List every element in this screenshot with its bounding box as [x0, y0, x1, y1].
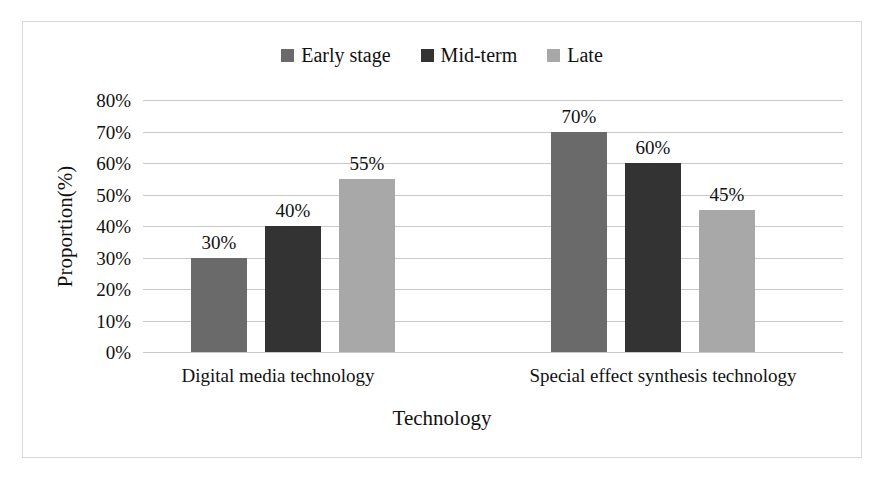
bar[interactable] [625, 163, 681, 352]
plot-area: 80%70%60%50%40%30%20%10%0%30%40%55%70%60… [143, 100, 843, 352]
x-axis-category-label: Digital media technology [143, 366, 413, 385]
y-axis-tick-label: 70% [96, 122, 131, 141]
bar-value-label: 60% [636, 138, 671, 157]
gridline [143, 352, 843, 353]
bar-column[interactable]: 55% [339, 100, 395, 352]
bar[interactable] [191, 258, 247, 353]
legend-item[interactable]: Early stage [281, 45, 390, 65]
y-axis-tick-label: 0% [106, 343, 131, 362]
bar-value-label: 30% [202, 233, 237, 252]
bar-column[interactable]: 45% [699, 100, 755, 352]
y-axis-title-label: Proportion(%) [56, 165, 77, 286]
legend-item[interactable]: Mid-term [421, 45, 518, 65]
y-axis-tick-label: 10% [96, 311, 131, 330]
bar-value-label: 45% [710, 185, 745, 204]
bar-group: 70%60%45% [503, 100, 803, 352]
bar[interactable] [339, 179, 395, 352]
y-axis-tick-label: 30% [96, 248, 131, 267]
y-axis-title: Proportion(%) [53, 100, 79, 352]
bar-value-label: 70% [562, 107, 597, 126]
legend-swatch-icon [421, 49, 434, 62]
y-axis-tick-label: 40% [96, 217, 131, 236]
y-axis-tick-label: 60% [96, 154, 131, 173]
bar-column[interactable]: 30% [191, 100, 247, 352]
x-axis-category-label: Special effect synthesis technology [478, 366, 848, 385]
chart-legend: Early stageMid-termLate [23, 45, 861, 65]
bar-group: 30%40%55% [163, 100, 423, 352]
legend-item-label: Early stage [301, 45, 390, 65]
legend-swatch-icon [547, 49, 560, 62]
bar-column[interactable]: 40% [265, 100, 321, 352]
bar[interactable] [265, 226, 321, 352]
bar-value-label: 55% [350, 154, 385, 173]
bar[interactable] [551, 132, 607, 353]
legend-item[interactable]: Late [547, 45, 603, 65]
chart-container: Early stageMid-termLate Proportion(%) 80… [22, 21, 862, 458]
legend-swatch-icon [281, 49, 294, 62]
x-axis-title: Technology [23, 408, 861, 429]
bar[interactable] [699, 210, 755, 352]
bar-column[interactable]: 60% [625, 100, 681, 352]
legend-item-label: Late [567, 45, 603, 65]
legend-item-label: Mid-term [441, 45, 518, 65]
y-axis-tick-label: 80% [96, 91, 131, 110]
y-axis-tick-label: 20% [96, 280, 131, 299]
bar-column[interactable]: 70% [551, 100, 607, 352]
bar-value-label: 40% [276, 201, 311, 220]
y-axis-tick-label: 50% [96, 185, 131, 204]
